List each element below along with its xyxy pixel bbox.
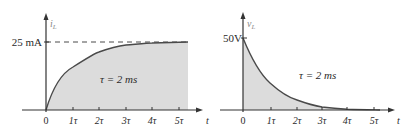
il-tick-3: 3τ bbox=[121, 115, 131, 126]
il-y-label: iL bbox=[50, 18, 57, 31]
chart-vl: vL 50V τ = 2 ms 0 1τ 2τ 3τ 4τ 5τ t bbox=[220, 12, 400, 126]
il-tick-2: 2τ bbox=[95, 115, 104, 126]
il-tick-4: 4τ bbox=[148, 115, 157, 126]
vl-tick-2: 2τ bbox=[293, 115, 302, 126]
il-tick-5: 5τ bbox=[175, 115, 184, 126]
il-y-axis-arrow-icon bbox=[44, 13, 49, 20]
vl-y-value-label: 50V bbox=[223, 32, 242, 44]
vl-x-label: t bbox=[397, 115, 400, 126]
vl-tick-4: 4τ bbox=[343, 115, 352, 126]
vl-tick-5: 5τ bbox=[370, 115, 379, 126]
vl-tick-3: 3τ bbox=[317, 115, 327, 126]
il-x-label: t bbox=[206, 115, 209, 126]
diagram-canvas: iL 25 mA τ = 2 ms 0 1τ 2τ 3τ 4τ 5τ t bbox=[0, 0, 416, 137]
il-tick-0: 0 bbox=[44, 115, 49, 126]
il-tau-annotation: τ = 2 ms bbox=[100, 73, 137, 85]
il-y-value-label: 25 mA bbox=[12, 36, 42, 48]
vl-tick-1: 1τ bbox=[267, 115, 276, 126]
vl-y-axis-arrow-icon bbox=[241, 12, 246, 19]
vl-y-label: vL bbox=[247, 18, 255, 31]
il-x-axis-arrow-icon bbox=[196, 108, 203, 113]
vl-tick-0: 0 bbox=[241, 115, 246, 126]
il-tick-1: 1τ bbox=[69, 115, 78, 126]
vl-tau-annotation: τ = 2 ms bbox=[299, 69, 336, 81]
vl-x-axis-arrow-icon bbox=[388, 108, 395, 113]
chart-il: iL 25 mA τ = 2 ms 0 1τ 2τ 3τ 4τ 5τ t bbox=[12, 13, 209, 126]
